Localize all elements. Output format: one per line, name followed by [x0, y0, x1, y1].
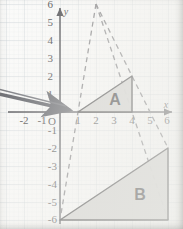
x-tick-3: 3: [111, 114, 117, 126]
x-tick--1: -1: [37, 114, 46, 126]
x-tick-5: 5: [147, 114, 153, 126]
y-tick--4: -4: [48, 178, 58, 190]
x-axis-label: x: [163, 99, 169, 110]
origin-label: O: [48, 115, 56, 127]
y-tick--5: -5: [48, 196, 58, 208]
y-tick-2: 2: [48, 70, 54, 82]
y-tick-5: 5: [48, 16, 54, 28]
x-axis-tick-labels: -2 -1 1 2 3 4 5 6: [19, 114, 170, 126]
x-tick--2: -2: [19, 114, 28, 126]
y-tick--3: -3: [48, 160, 58, 172]
y-axis-label: y: [63, 6, 69, 17]
x-tick-1: 1: [75, 114, 81, 126]
triangle-b-label: B: [134, 186, 146, 203]
y-tick-6: 6: [48, 0, 54, 10]
x-tick-4: 4: [129, 114, 135, 126]
triangle-a-label: A: [109, 91, 121, 108]
y-tick-4: 4: [48, 34, 54, 46]
x-tick-6: 6: [164, 114, 170, 126]
y-tick--2: -2: [48, 142, 57, 154]
y-tick--6: -6: [48, 213, 58, 225]
y-tick-3: 3: [48, 52, 54, 64]
y-tick-1: 1: [48, 88, 54, 100]
x-tick-2: 2: [93, 114, 99, 126]
coordinate-grid-figure: A B -2 -1 1 2 3 4 5 6 6 5 4 3 2 1 -1 -2 …: [0, 0, 183, 229]
worksheet-figure-page: A B -2 -1 1 2 3 4 5 6 6 5 4 3 2 1 -1 -2 …: [0, 0, 183, 229]
